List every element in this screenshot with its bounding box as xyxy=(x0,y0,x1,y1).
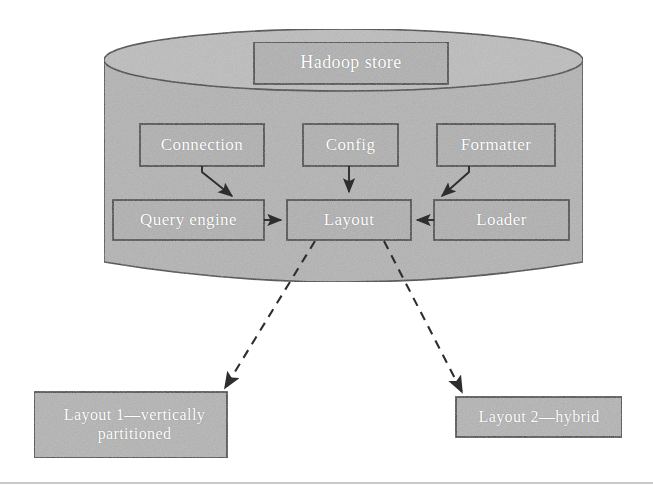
node-rect-connection[interactable] xyxy=(140,124,264,166)
node-rect-query-engine[interactable] xyxy=(113,200,264,240)
node-rect-layout[interactable] xyxy=(287,200,411,240)
node-rect-config[interactable] xyxy=(303,124,398,166)
diagram-svg xyxy=(0,0,653,489)
node-rect-layout-1[interactable] xyxy=(34,392,227,458)
figure-canvas: Hadoop store Connection Config Formatter… xyxy=(0,0,653,489)
node-rect-loader[interactable] xyxy=(434,200,569,240)
page-divider-rule xyxy=(0,482,653,484)
node-rect-layout-2[interactable] xyxy=(456,397,622,437)
cylinder-body xyxy=(104,60,583,282)
node-rect-hadoop-store[interactable] xyxy=(254,42,448,84)
node-rect-formatter[interactable] xyxy=(437,124,555,166)
